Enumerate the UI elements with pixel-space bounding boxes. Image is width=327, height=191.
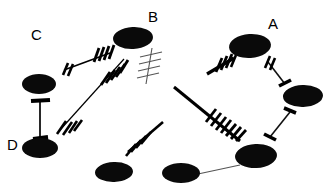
ellipse-bottom-right	[234, 143, 277, 169]
connector-c-b	[63, 45, 114, 76]
connector-b-comb	[137, 48, 162, 84]
connector-a-left	[207, 54, 236, 74]
connector-mid	[126, 122, 163, 156]
label-c: C	[31, 27, 42, 42]
ellipse-right	[283, 84, 324, 107]
label-b: B	[148, 9, 158, 24]
connector-r-br	[264, 108, 296, 140]
connector-center	[174, 87, 246, 141]
label-d: D	[7, 137, 18, 152]
ellipse-d	[22, 138, 58, 158]
diagram-canvas: A B C D	[0, 0, 327, 191]
label-a: A	[268, 16, 278, 31]
connector-bottom	[198, 165, 240, 174]
ellipse-c	[22, 74, 56, 94]
connector-d-b	[57, 59, 128, 135]
connector-a-right	[265, 56, 291, 86]
ellipse-bottom-mid	[162, 163, 200, 183]
ellipse-bottom-left	[95, 161, 134, 182]
connector-c-d	[31, 100, 50, 139]
ellipse-b	[112, 26, 153, 50]
ellipse-group	[22, 26, 323, 183]
